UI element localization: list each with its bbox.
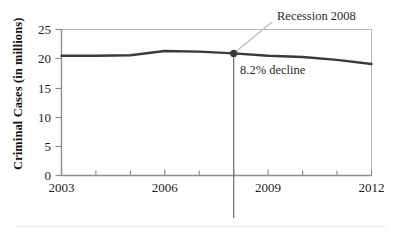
chart-container: 0 5 10 15 20 25 2003 2006 2009 2012 Crim…	[0, 0, 402, 232]
x-tick-label-2012: 2012	[359, 180, 385, 195]
y-tick-label-5: 5	[45, 139, 52, 154]
x-axis-ticks	[62, 170, 372, 176]
recession-annotation-label: Recession 2008	[277, 9, 356, 23]
decline-annotation-label: 8.2% decline	[240, 63, 306, 77]
data-line-criminal-cases	[62, 51, 372, 64]
y-tick-label-10: 10	[38, 110, 51, 125]
x-tick-label-2006: 2006	[152, 180, 179, 195]
x-tick-label-2003: 2003	[49, 180, 75, 195]
x-tick-label-2009: 2009	[255, 180, 281, 195]
y-axis-ticks	[56, 30, 62, 176]
y-tick-label-20: 20	[38, 51, 51, 66]
line-chart: 0 5 10 15 20 25 2003 2006 2009 2012 Crim…	[0, 0, 402, 232]
recession-marker-dot	[230, 50, 237, 57]
recession-leader-line	[236, 22, 272, 52]
y-axis-title: Criminal Cases (in millions)	[11, 18, 25, 170]
bottom-divider	[16, 226, 386, 227]
y-tick-label-15: 15	[38, 81, 51, 96]
y-tick-label-25: 25	[38, 22, 51, 37]
